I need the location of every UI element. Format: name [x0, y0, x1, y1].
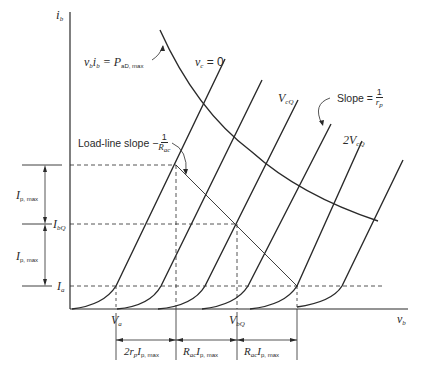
curve-4 [202, 124, 331, 309]
x-axis-subscript: b [402, 319, 406, 327]
ia-subscript: a [61, 286, 65, 294]
curve-6 [297, 160, 403, 307]
curve-2vcq [250, 141, 362, 309]
y-axis-label: ib [56, 8, 63, 23]
dim-sub: p, max [261, 352, 279, 358]
curve-2 [117, 80, 262, 309]
curve-label-2vcq: 2VcQ [343, 134, 365, 148]
y-axis-subscript: b [60, 15, 64, 23]
marker-va: Va [111, 314, 122, 328]
dim-label-rac-ipmax-1: RacIp, max [183, 346, 218, 359]
marker-ip-max-upper: Ip, max [16, 189, 38, 202]
curve-vc-0 [72, 59, 225, 309]
ibq-subscript: bQ [57, 224, 66, 232]
load-line-text: Load-line slope − [78, 137, 158, 149]
marker-vbq: VbQ [229, 314, 245, 328]
marker-ibq: IbQ [53, 218, 66, 232]
plate-slope-text: Slope = [337, 92, 376, 104]
vc-zero-value: = 0 [203, 55, 223, 69]
va-subscript: a [118, 320, 122, 328]
two-vcq-subscript: cQ [356, 140, 364, 148]
power-hyperbola-label: vbib = PaD, max [84, 56, 143, 70]
power-eq: = P [100, 55, 121, 69]
plate-slope-label: Slope = 1rp [337, 88, 383, 110]
marker-ip-max-lower: Ip, max [16, 250, 38, 263]
vbq-subscript: bQ [236, 320, 245, 328]
dim-pre: R [183, 345, 190, 357]
dim-pre: 2r [124, 345, 134, 357]
dim-pre: R [244, 345, 251, 357]
rp-subscript: p [379, 101, 383, 109]
load-line-fraction: 1Rac [158, 133, 170, 155]
ip-subscript: p, max [20, 196, 38, 202]
fraction-denominator: rp [376, 98, 383, 109]
ip-subscript: p, max [20, 257, 38, 263]
curve-label-vc-0: vc = 0 [195, 56, 224, 70]
rac-subscript: ac [164, 146, 171, 154]
marker-ia: Ia [57, 280, 65, 294]
two-vcq-symbol: 2V [343, 133, 356, 147]
power-subscript: aD, max [121, 63, 143, 69]
dim-sub: p, max [141, 352, 159, 358]
curve-label-vcq: VcQ [278, 92, 294, 106]
load-line-label: Load-line slope −1Rac [78, 133, 170, 155]
dim-label-rac-ipmax-2: RacIp, max [244, 346, 279, 359]
plate-slope-fraction: 1rp [376, 88, 383, 110]
fraction-denominator: Rac [158, 143, 170, 154]
dim-sub: p, max [200, 352, 218, 358]
x-axis-label: vb [397, 313, 406, 327]
dim-label-2rp-ipmax: 2rpIp, max [124, 346, 159, 359]
vcq-subscript: cQ [285, 98, 293, 106]
